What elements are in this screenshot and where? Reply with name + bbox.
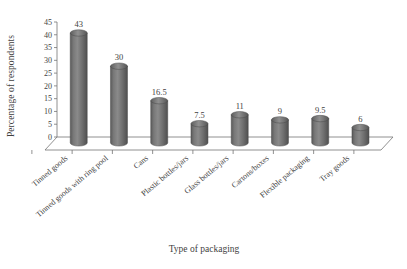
y-axis-ticks: 051015202530354045 [44,18,57,142]
bar-series: 433016.57.51199.56 [70,19,369,146]
bar-value-label: 30 [115,52,124,62]
bar-value-label: 9.5 [315,105,326,115]
y-tick-label: 30 [44,56,52,65]
category-label: Cans [132,154,150,171]
y-tick-label: 40 [44,31,52,40]
y-axis-title: Percentage of respondents [6,35,16,137]
bar: 7.5 [191,110,208,146]
category-label: Glass bottles/jars [183,154,231,196]
bar-value-label: 6 [358,114,362,124]
category-label: Tinned goods with ring pool [34,153,110,219]
bar: 30 [110,52,127,146]
x-axis-category-labels: Tinned goodsTinned goods with ring poolC… [30,153,351,219]
bar: 9.5 [312,105,329,146]
bar: 6 [352,114,369,147]
bar-value-label: 43 [74,19,83,29]
bar-value-label: 7.5 [194,110,205,120]
bar-value-label: 11 [236,101,244,111]
y-tick-label: 15 [44,94,52,103]
category-label: Tinned goods [30,154,69,189]
x-axis-ticks [32,150,354,154]
bar: 43 [70,19,87,146]
category-label: Tray goods [318,154,351,184]
bar-value-label: 16.5 [152,87,167,97]
bar-value-label: 9 [278,106,282,116]
y-tick-label: 10 [44,107,52,116]
chart-canvas: 051015202530354045 Percentage of respond… [0,0,407,269]
x-axis-title: Type of packaging [169,244,240,254]
y-tick-label: 25 [44,69,52,78]
y-tick-label: 0 [48,133,52,142]
bar: 9 [271,106,288,146]
bar-chart: 051015202530354045 Percentage of respond… [0,0,407,269]
category-label: Cartons/boxes [230,154,271,190]
y-tick-label: 20 [44,82,52,91]
y-tick-label: 35 [44,43,52,52]
y-tick-label: 45 [44,18,52,27]
bar: 11 [231,101,248,146]
bar: 16.5 [151,87,168,146]
floor-plane [45,137,393,150]
y-tick-label: 5 [48,120,52,129]
